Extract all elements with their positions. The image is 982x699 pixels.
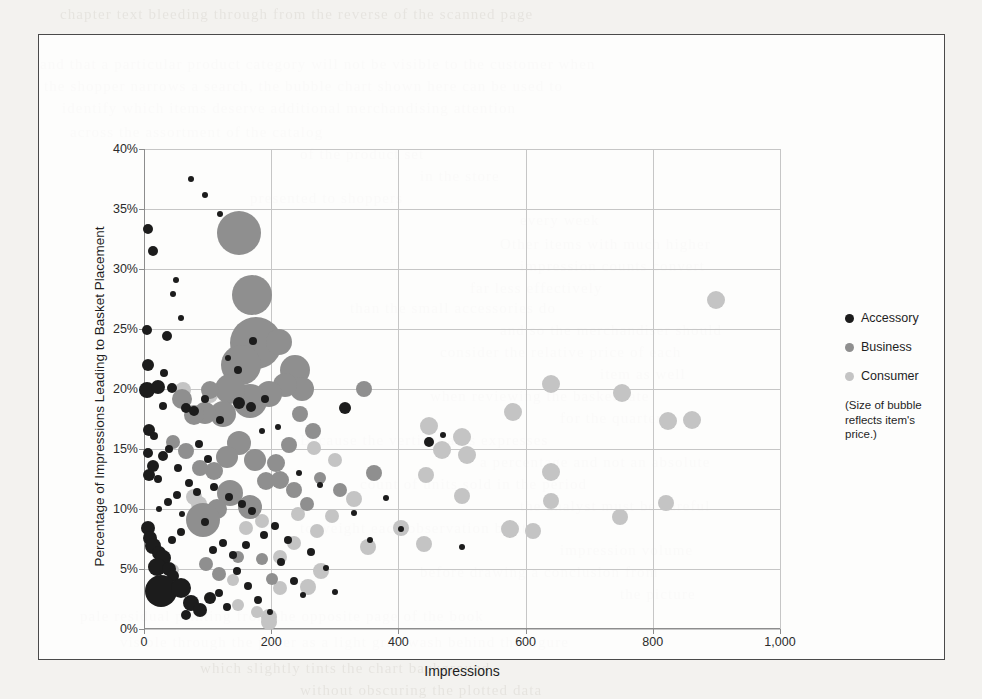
bubble-accessory — [244, 582, 252, 590]
bubble-accessory — [164, 498, 172, 506]
x-tickmark — [271, 629, 272, 634]
gridline-y — [144, 629, 780, 630]
gridline-y — [144, 149, 780, 150]
bubble-business — [266, 329, 292, 355]
bubble-consumer — [454, 488, 470, 504]
x-tickmark — [780, 629, 781, 634]
y-tickmark — [139, 509, 144, 510]
bubble-accessory — [210, 483, 218, 491]
bubble-accessory — [233, 397, 245, 409]
bubble-accessory — [383, 495, 389, 501]
legend-item-consumer: Consumer — [845, 369, 970, 383]
legend-item-accessory: Accessory — [845, 311, 970, 325]
bubble-consumer — [251, 606, 263, 618]
y-tickmark — [139, 149, 144, 150]
bubble-accessory — [323, 565, 329, 571]
bubble-business — [281, 437, 297, 453]
bubble-consumer — [420, 417, 438, 435]
bubble-business — [256, 553, 268, 565]
x-tick-label: 1,000 — [745, 635, 815, 649]
y-tickmark — [139, 269, 144, 270]
legend-marker-icon — [845, 372, 854, 381]
bubble-accessory — [209, 546, 217, 554]
bubble-consumer — [346, 491, 362, 507]
y-axis-title: Percentage of Impressions Leading to Bas… — [92, 182, 107, 612]
legend-label: Consumer — [861, 369, 919, 383]
bubble-business — [217, 211, 261, 255]
legend-item-business: Business — [845, 340, 970, 354]
bubble-accessory — [170, 291, 176, 297]
bubble-accessory — [261, 395, 269, 403]
gridline-x — [653, 149, 654, 629]
bubble-accessory — [248, 507, 256, 515]
bubble-consumer — [658, 495, 674, 511]
bubble-business — [333, 483, 347, 497]
bubble-accessory — [275, 424, 281, 430]
gridline-y — [144, 269, 780, 270]
bubble-business — [366, 465, 382, 481]
bubble-consumer — [504, 403, 522, 421]
bubble-accessory — [300, 592, 306, 598]
plot-area: 0%5%10%15%20%25%30%35%40% 02004006008001… — [144, 149, 780, 629]
bubble-accessory — [179, 511, 185, 517]
bubble-accessory — [174, 464, 182, 472]
bubble-accessory — [398, 526, 404, 532]
bubble-business — [178, 443, 194, 459]
bubble-accessory — [181, 610, 191, 620]
bubble-accessory — [284, 536, 292, 544]
bubble-accessory — [142, 359, 154, 371]
bubble-consumer — [310, 524, 324, 538]
bubble-consumer — [416, 536, 432, 552]
chart-legend: AccessoryBusinessConsumer (Size of bubbl… — [845, 311, 970, 442]
bubble-accessory — [162, 331, 172, 341]
bubble-consumer — [307, 441, 321, 455]
bubble-accessory — [440, 432, 446, 438]
x-tickmark — [653, 629, 654, 634]
bubble-accessory — [188, 176, 194, 182]
x-tick-label: 800 — [618, 635, 688, 649]
bubble-accessory — [271, 522, 279, 530]
bubble-accessory — [173, 491, 181, 499]
y-tick-label: 0% — [68, 622, 138, 636]
bubble-accessory — [351, 510, 357, 516]
bubble-accessory — [215, 589, 223, 597]
legend-entries: AccessoryBusinessConsumer — [845, 311, 970, 383]
x-tick-label: 400 — [363, 635, 433, 649]
bubble-accessory — [246, 402, 256, 412]
bubble-accessory — [143, 448, 153, 458]
y-tickmark — [139, 209, 144, 210]
legend-marker-icon — [845, 343, 854, 352]
x-tickmark — [144, 629, 145, 634]
bubble-accessory — [193, 488, 201, 496]
bubble-accessory — [160, 369, 168, 377]
y-tick-label: 40% — [68, 142, 138, 156]
bubble-accessory — [195, 440, 203, 448]
bubble-accessory — [189, 406, 199, 416]
bubble-consumer — [458, 446, 476, 464]
bubble-business — [267, 454, 285, 472]
bubble-accessory — [233, 567, 241, 575]
ghost-text-line: without obscuring the plotted data — [300, 682, 542, 699]
bubble-consumer — [501, 520, 519, 538]
bubble-consumer — [542, 375, 560, 393]
x-tick-label: 600 — [491, 635, 561, 649]
bubble-accessory — [254, 596, 262, 604]
legend-size-note: (Size of bubble reflects item's price.) — [845, 398, 970, 442]
x-tickmark — [526, 629, 527, 634]
bubble-consumer — [418, 467, 434, 483]
bubble-accessory — [367, 537, 373, 543]
bubble-accessory — [151, 380, 165, 394]
bubble-business — [300, 497, 314, 511]
bubble-business — [356, 381, 372, 397]
bubble-business — [292, 406, 308, 422]
bubble-business — [286, 482, 302, 498]
bubble-business — [266, 573, 278, 585]
bubble-accessory — [201, 518, 209, 526]
bubble-business — [199, 557, 213, 571]
bubble-consumer — [325, 509, 339, 523]
bubble-accessory — [165, 445, 173, 453]
bubble-accessory — [173, 277, 179, 283]
bubble-consumer — [543, 493, 559, 509]
bubble-business — [205, 462, 223, 480]
bubble-accessory — [225, 355, 231, 361]
